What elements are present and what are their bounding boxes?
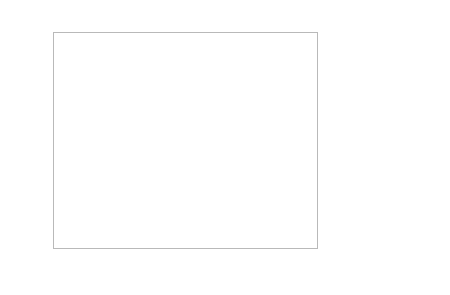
chart-canvas bbox=[0, 0, 450, 295]
plot-area bbox=[53, 32, 318, 249]
stats-annotation bbox=[338, 40, 450, 48]
